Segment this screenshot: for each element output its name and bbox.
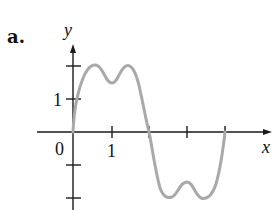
y-axis-label: y (62, 20, 72, 40)
plot-area: y x 1 0 1 (0, 0, 279, 210)
x-axis-arrow-icon (263, 129, 272, 135)
y-tick-label-1: 1 (53, 90, 62, 110)
x-axis-label: x (261, 137, 270, 157)
x-tick-label-1: 1 (107, 141, 116, 161)
y-axis-arrow-icon (70, 44, 76, 53)
graph-panel: a. y x 1 0 1 (0, 0, 279, 210)
origin-label: 0 (55, 139, 64, 159)
